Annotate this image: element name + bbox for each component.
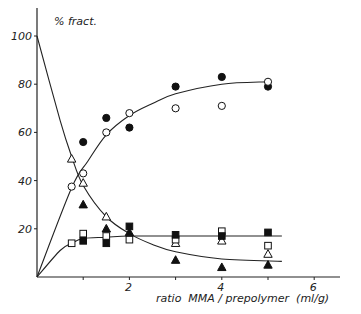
open-square-marker (126, 236, 133, 243)
open-square-marker (68, 240, 75, 247)
open-square-marker (265, 242, 272, 249)
open-circle-marker (103, 129, 110, 136)
y-tick-label: 40 (18, 175, 32, 188)
filled-triangle-marker (171, 256, 179, 264)
open-circle-marker (126, 110, 133, 117)
filled-square-marker (80, 238, 87, 245)
y-tick-label: 60 (18, 126, 32, 139)
filled-circle-marker (80, 138, 87, 145)
y-tick-label: 20 (18, 223, 32, 236)
data-points (67, 73, 272, 270)
filled-triangle-marker (79, 200, 87, 208)
y-tick-label: 80 (18, 78, 32, 91)
open-circle-marker (68, 183, 75, 190)
axes: 20406080100246 (11, 8, 340, 294)
filled-square-marker (172, 232, 179, 239)
y-tick-label: 100 (11, 30, 32, 43)
filled-square-marker (126, 223, 133, 230)
x-axis-title: ratio MMA / prepolymer (ml/g) (156, 292, 329, 305)
open-square-marker (80, 230, 87, 237)
open-circle-marker (172, 105, 179, 112)
filled-circle-marker (172, 83, 179, 90)
filled-triangle-marker (218, 263, 226, 271)
chart: 20406080100246 % fract. ratio MMA / prep… (0, 0, 361, 314)
filled-triangle-marker (102, 224, 110, 232)
filled-square-marker (265, 229, 272, 236)
filled-square-marker (219, 233, 226, 240)
open-circle-marker (218, 102, 225, 109)
filled-triangle-marker (264, 261, 272, 269)
filled-circle-marker (218, 73, 225, 80)
fit-curve-triangle-decay (37, 36, 282, 261)
x-tick-label: 2 (125, 281, 132, 294)
open-circle-marker (264, 78, 271, 85)
open-square-marker (103, 233, 110, 240)
filled-square-marker (103, 240, 110, 247)
y-axis-title: % fract. (54, 15, 97, 28)
filled-circle-marker (103, 114, 110, 121)
fit-curve-circle-rise (37, 82, 268, 277)
filled-circle-marker (126, 124, 133, 131)
open-circle-marker (80, 170, 87, 177)
open-triangle-marker (67, 155, 75, 163)
open-triangle-marker (264, 250, 272, 258)
